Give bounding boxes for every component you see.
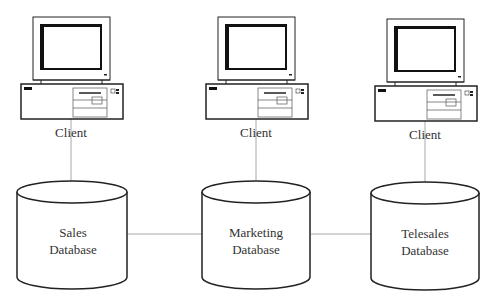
db-name: Sales	[49, 224, 97, 241]
db-name: Telesales	[401, 225, 449, 242]
client-database-diagram: Client Client Client Sales Database Mark…	[0, 0, 496, 304]
db-type: Database	[49, 241, 97, 258]
client-label: Client	[55, 124, 87, 141]
sales-db-label: Sales Database	[49, 224, 97, 258]
client-label: Client	[409, 126, 441, 143]
telesales-db-label: Telesales Database	[401, 225, 449, 259]
client-label: Client	[240, 124, 272, 141]
marketing-db-label: Marketing Database	[229, 224, 283, 258]
db-name: Marketing	[229, 224, 283, 241]
desktop-computer-icon	[375, 19, 477, 121]
desktop-computer-icon	[21, 17, 123, 119]
db-type: Database	[401, 242, 449, 259]
db-type: Database	[229, 241, 283, 258]
desktop-computer-icon	[206, 17, 308, 119]
